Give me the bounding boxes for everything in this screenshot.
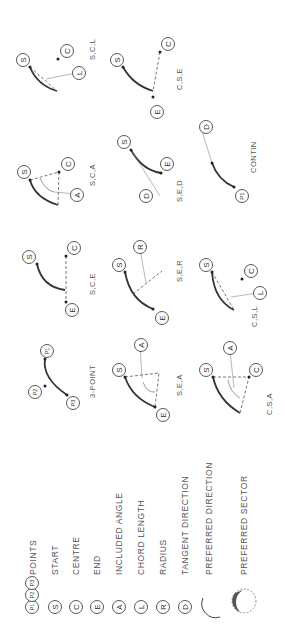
svg-text:S: S <box>115 367 124 372</box>
svg-text:C: C <box>72 604 81 610</box>
svg-text:C: C <box>164 41 173 47</box>
caption-csa: C,S,A <box>265 393 274 415</box>
legend-label-preferred-sector: PREFERRED SECTOR <box>239 475 249 575</box>
svg-text:P3: P3 <box>29 580 35 587</box>
legend-label-end: END <box>92 555 102 575</box>
caption-sea: S,E,A <box>175 374 184 396</box>
svg-text:S: S <box>115 262 124 267</box>
svg-text:C: C <box>252 367 261 373</box>
svg-text:S: S <box>20 169 29 174</box>
method-sce: S C E S,C,E <box>23 242 98 317</box>
legend-label-preferred-direction: PREFERRED DIRECTION <box>204 462 214 575</box>
svg-text:P3: P3 <box>70 400 76 407</box>
legend-label-included-angle: INCLUDED ANGLE <box>114 492 124 575</box>
svg-text:S: S <box>113 57 122 62</box>
method-ser: S R E S,E,R <box>113 241 185 325</box>
svg-text:S: S <box>25 254 34 259</box>
legend-label-centre: CENTRE <box>71 536 81 575</box>
method-sea: S A E S,E,A <box>113 339 185 422</box>
svg-text:A: A <box>115 604 124 610</box>
method-sca: S C A S,C,A <box>18 158 98 206</box>
preferred-direction-icon <box>202 598 220 618</box>
method-3point: P1 P2 P3 3-POINT <box>29 345 98 410</box>
svg-text:C: C <box>63 48 72 54</box>
svg-text:P1: P1 <box>29 604 35 611</box>
svg-text:A: A <box>137 342 146 348</box>
legend-label-start: START <box>50 545 60 575</box>
svg-text:P2: P2 <box>32 389 38 396</box>
svg-text:S: S <box>120 139 129 144</box>
caption-ser: S,E,R <box>175 260 184 282</box>
svg-text:E: E <box>159 412 168 417</box>
method-scl: S C L S,C,L <box>17 39 98 91</box>
method-cse: S C E C,S,E <box>111 38 185 119</box>
legend-label-chord-length: CHORD LENGTH <box>136 500 146 575</box>
legend-label-radius: RADIUS <box>158 539 168 575</box>
svg-text:L: L <box>256 290 265 295</box>
svg-text:S: S <box>51 604 60 609</box>
caption-3point: 3-POINT <box>88 365 97 398</box>
svg-text:S: S <box>19 57 28 62</box>
legend-label-tangent-direction: TANGENT DIRECTION <box>180 476 190 575</box>
caption-cse: C,S,E <box>175 68 184 90</box>
svg-text:R: R <box>159 604 168 610</box>
svg-text:A: A <box>73 192 82 198</box>
svg-text:E: E <box>93 604 102 609</box>
caption-scl: S,C,L <box>88 39 97 60</box>
svg-text:P1: P1 <box>239 192 245 200</box>
svg-text:D: D <box>142 193 151 199</box>
svg-text:S: S <box>202 367 211 372</box>
method-csl: S C L C,S,L <box>200 259 267 328</box>
method-csa: S A C C,S,A <box>200 342 275 416</box>
svg-text:D: D <box>202 124 211 130</box>
svg-text:A: A <box>226 345 235 351</box>
caption-csl: C,S,L <box>250 306 259 327</box>
svg-text:E: E <box>163 161 172 166</box>
caption-sed: S,E,D <box>175 180 184 202</box>
legend-direct: P1 P2 P3 POINTS S START C CENTRE E END A… <box>26 462 257 618</box>
svg-text:P2: P2 <box>29 592 35 599</box>
svg-text:C: C <box>247 268 256 274</box>
arc-methods-diagram: P1 P2 P3 POINTS S START C CENTRE E END A… <box>0 0 285 641</box>
svg-text:E: E <box>158 315 167 320</box>
svg-text:R: R <box>136 244 145 250</box>
svg-text:C: C <box>64 161 73 167</box>
svg-text:P1: P1 <box>44 348 50 355</box>
caption-sca: S,C,A <box>88 164 97 186</box>
preferred-sector-icon <box>232 589 256 613</box>
svg-text:E: E <box>153 109 162 114</box>
method-sed: S E D S,E,D <box>118 136 185 203</box>
svg-text:E: E <box>68 307 77 312</box>
svg-text:C: C <box>70 245 79 251</box>
svg-text:S: S <box>202 262 211 267</box>
svg-text:L: L <box>137 604 146 609</box>
method-contin: D P1 CONTIN <box>200 121 259 203</box>
legend-label-points: POINTS <box>28 540 38 575</box>
caption-contin: CONTIN <box>249 141 258 173</box>
svg-text:D: D <box>181 604 190 610</box>
caption-sce: S,C,E <box>88 273 97 295</box>
svg-text:L: L <box>75 70 84 75</box>
